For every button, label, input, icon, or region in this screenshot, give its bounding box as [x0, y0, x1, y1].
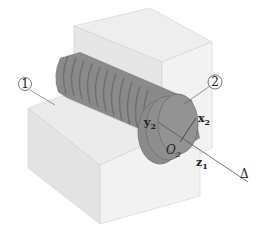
z1-label: z1 — [196, 156, 208, 171]
part-label-2-text: 2 — [211, 75, 219, 89]
part-label-2: 2 — [208, 75, 222, 89]
axis-delta-label: Δ — [240, 167, 249, 181]
screw-joint-diagram: 1 2 x2 y2 z1 O2 Δ — [0, 0, 265, 234]
part-label-1-text: 1 — [21, 77, 29, 91]
part-label-1: 1 — [19, 77, 32, 91]
